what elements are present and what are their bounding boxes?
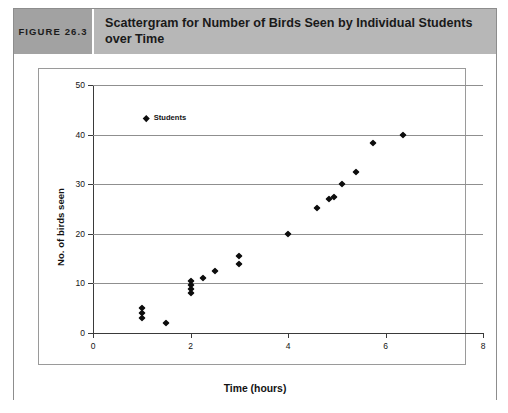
- x-axis-tick-label: 4: [286, 341, 291, 351]
- y-axis-tick-label: 50: [76, 80, 85, 90]
- chart-legend: Students: [144, 113, 186, 122]
- legend-label: Students: [154, 113, 187, 122]
- x-axis-tick: [483, 333, 484, 338]
- data-point: [211, 267, 218, 274]
- x-axis-tick: [288, 333, 289, 338]
- y-axis-tick-label: 20: [76, 229, 85, 239]
- y-axis-title: No. of birds seen: [55, 188, 66, 266]
- x-axis-tick-label: 6: [383, 341, 388, 351]
- legend-marker-icon: [143, 115, 149, 121]
- chart-body: 0102030405002468Students No. of birds se…: [14, 54, 496, 400]
- data-point: [284, 230, 291, 237]
- data-point: [353, 169, 360, 176]
- y-axis-tick-label: 40: [76, 130, 85, 140]
- x-axis-tick: [191, 333, 192, 338]
- y-axis-tick-label: 0: [80, 328, 85, 338]
- data-point: [370, 139, 377, 146]
- data-point: [163, 320, 170, 327]
- data-point: [236, 260, 243, 267]
- y-axis-tick: [88, 234, 93, 235]
- x-axis-tick: [93, 333, 94, 338]
- x-axis-tick-label: 0: [91, 341, 96, 351]
- y-gridline: [93, 85, 483, 86]
- figure-title-box: Scattergram for Number of Birds Seen by …: [94, 9, 496, 54]
- x-axis-tick: [386, 333, 387, 338]
- y-axis-tick-label: 10: [76, 278, 85, 288]
- data-point: [236, 252, 243, 259]
- y-gridline: [93, 135, 483, 136]
- figure-title: Scattergram for Number of Birds Seen by …: [105, 16, 496, 47]
- data-point: [399, 131, 406, 138]
- plot-frame: 0102030405002468Students: [38, 68, 466, 365]
- figure-number-box: FIGURE 26.3: [14, 9, 94, 54]
- y-axis-line: [93, 85, 94, 333]
- y-gridline: [93, 184, 483, 185]
- x-axis-tick-label: 8: [481, 341, 486, 351]
- y-axis-tick: [88, 85, 93, 86]
- y-axis-tick: [88, 283, 93, 284]
- y-gridline: [93, 283, 483, 284]
- x-axis-tick-label: 2: [188, 341, 193, 351]
- data-point: [199, 275, 206, 282]
- figure-number-label: FIGURE 26.3: [18, 26, 87, 37]
- y-axis-tick: [88, 184, 93, 185]
- data-point: [138, 315, 145, 322]
- plot-area: 0102030405002468Students: [93, 85, 483, 333]
- data-point: [187, 290, 194, 297]
- x-axis-title: Time (hours): [14, 383, 496, 394]
- y-axis-tick: [88, 135, 93, 136]
- figure-container: FIGURE 26.3 Scattergram for Number of Bi…: [13, 8, 497, 400]
- figure-header: FIGURE 26.3 Scattergram for Number of Bi…: [14, 9, 496, 54]
- y-axis-tick-label: 30: [76, 179, 85, 189]
- data-point: [338, 181, 345, 188]
- data-point: [314, 204, 321, 211]
